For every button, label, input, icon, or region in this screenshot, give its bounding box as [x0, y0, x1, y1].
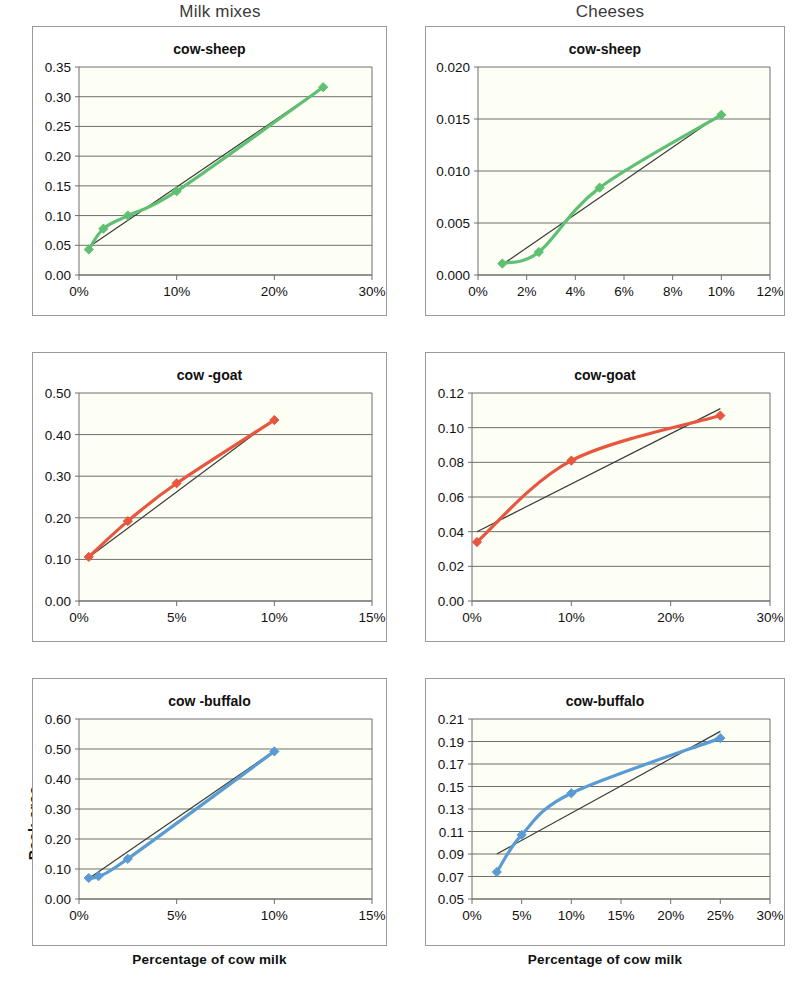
x-tick-label: 5% [512, 908, 532, 923]
y-tick-label: 0.40 [45, 772, 71, 787]
y-tick-label: 0.30 [45, 90, 71, 105]
x-tick-label: 25% [707, 908, 734, 923]
y-tick-label: 0.10 [45, 209, 71, 224]
x-tick-label: 4% [566, 284, 586, 299]
y-tick-label: 0.15 [438, 780, 464, 795]
panel-milk-cow-buffalo: cow -buffalo 0.000.100.200.300.400.500.6… [32, 678, 387, 946]
y-tick-label: 0.06 [438, 490, 464, 505]
y-tick-label: 0.09 [438, 847, 464, 862]
x-tick-label: 0% [468, 284, 488, 299]
panel-cheese-cow-goat: cow-goat 0.000.020.040.060.080.100.120%1… [425, 352, 785, 642]
y-tick-label: 0.17 [438, 757, 464, 772]
plot-area [79, 67, 372, 275]
x-tick-label: 20% [261, 284, 288, 299]
y-tick-label: 0.05 [45, 238, 71, 253]
x-tick-label: 10% [261, 908, 288, 923]
x-tick-label: 30% [756, 610, 783, 625]
y-tick-label: 0.13 [438, 802, 464, 817]
x-tick-label: 15% [358, 610, 385, 625]
y-tick-label: 0.00 [45, 268, 71, 283]
plot-milk-cow-goat: 0.000.100.200.300.400.500%5%10%15% [33, 353, 386, 641]
y-tick-label: 0.07 [438, 870, 464, 885]
y-tick-label: 0.08 [438, 455, 464, 470]
chart-svg: 0.000.100.200.300.400.500.600%5%10%15% [33, 679, 388, 947]
y-tick-label: 0.50 [45, 742, 71, 757]
x-tick-label: 10% [163, 284, 190, 299]
y-tick-label: 0.10 [45, 552, 71, 567]
plot-milk-cow-buffalo: 0.000.100.200.300.400.500.600%5%10%15% [33, 679, 386, 945]
y-tick-label: 0.60 [45, 712, 71, 727]
x-axis-title-milk: Percentage of cow milk [32, 952, 387, 967]
y-tick-label: 0.10 [45, 862, 71, 877]
plot-milk-cow-sheep: 0.000.050.100.150.200.250.300.350%10%20%… [33, 27, 386, 315]
y-tick-label: 0.15 [45, 179, 71, 194]
x-tick-label: 30% [358, 284, 385, 299]
y-tick-label: 0.10 [438, 421, 464, 436]
y-tick-label: 0.000 [436, 268, 470, 283]
panel-milk-cow-goat: cow -goat 0.000.100.200.300.400.500%5%10… [32, 352, 387, 642]
y-tick-label: 0.005 [436, 216, 470, 231]
y-tick-label: 0.21 [438, 712, 464, 727]
y-tick-label: 0.05 [438, 892, 464, 907]
chart-svg: 0.000.020.040.060.080.100.120%10%20%30% [426, 353, 786, 643]
x-tick-label: 15% [358, 908, 385, 923]
chart-svg: 0.000.100.200.300.400.500%5%10%15% [33, 353, 388, 643]
y-tick-label: 0.25 [45, 119, 71, 134]
panel-milk-cow-sheep: cow-sheep 0.000.050.100.150.200.250.300.… [32, 26, 387, 316]
y-tick-label: 0.30 [45, 469, 71, 484]
x-tick-label: 0% [462, 908, 482, 923]
x-tick-label: 8% [663, 284, 683, 299]
chart-row-goat: Peak area cow -goat 0.000.100.200.300.40… [0, 352, 800, 652]
plot-cheese-cow-goat: 0.000.020.040.060.080.100.120%10%20%30% [426, 353, 784, 641]
x-tick-label: 0% [69, 610, 89, 625]
x-tick-label: 10% [558, 610, 585, 625]
y-tick-label: 0.50 [45, 386, 71, 401]
x-axis-title-cheese: Percentage of cow milk [425, 952, 785, 967]
y-tick-label: 0.00 [45, 892, 71, 907]
x-tick-label: 15% [607, 908, 634, 923]
x-tick-label: 0% [69, 284, 89, 299]
x-tick-label: 10% [558, 908, 585, 923]
chart-svg: 0.000.050.100.150.200.250.300.350%10%20%… [33, 27, 388, 317]
y-tick-label: 0.40 [45, 428, 71, 443]
x-tick-label: 12% [756, 284, 783, 299]
plot-area [79, 393, 372, 601]
y-tick-label: 0.02 [438, 559, 464, 574]
y-tick-label: 0.00 [438, 594, 464, 609]
y-tick-label: 0.20 [45, 511, 71, 526]
y-tick-label: 0.020 [436, 60, 470, 75]
x-tick-label: 6% [614, 284, 634, 299]
y-tick-label: 0.19 [438, 735, 464, 750]
y-tick-label: 0.04 [438, 525, 465, 540]
x-tick-label: 5% [167, 908, 187, 923]
y-tick-label: 0.12 [438, 386, 464, 401]
y-tick-label: 0.30 [45, 802, 71, 817]
chart-svg: 0.050.070.090.110.130.150.170.190.210%5%… [426, 679, 786, 947]
panel-cheese-cow-sheep: cow-sheep 0.0000.0050.0100.0150.0200%2%4… [425, 26, 785, 316]
x-tick-label: 5% [167, 610, 187, 625]
y-tick-label: 0.010 [436, 164, 470, 179]
x-tick-label: 20% [657, 610, 684, 625]
y-tick-label: 0.11 [439, 825, 464, 840]
column-header-milk-mixes: Milk mixes [40, 2, 400, 22]
plot-cheese-cow-buffalo: 0.050.070.090.110.130.150.170.190.210%5%… [426, 679, 784, 945]
panel-cheese-cow-buffalo: cow-buffalo 0.050.070.090.110.130.150.17… [425, 678, 785, 946]
x-tick-label: 10% [261, 610, 288, 625]
chart-row-sheep: Peak area cow-sheep 0.000.050.100.150.20… [0, 26, 800, 326]
chart-row-buffalo: Peak area cow -buffalo 0.000.100.200.300… [0, 678, 800, 968]
x-tick-label: 0% [69, 908, 89, 923]
y-tick-label: 0.015 [436, 112, 470, 127]
y-tick-label: 0.20 [45, 832, 71, 847]
y-tick-label: 0.35 [45, 60, 71, 75]
x-tick-label: 10% [708, 284, 735, 299]
x-tick-label: 2% [517, 284, 537, 299]
x-tick-label: 20% [657, 908, 684, 923]
column-header-cheeses: Cheeses [430, 2, 790, 22]
figure-root: Milk mixes Cheeses Peak area cow-sheep 0… [0, 0, 800, 1005]
x-tick-label: 30% [756, 908, 783, 923]
plot-cheese-cow-sheep: 0.0000.0050.0100.0150.0200%2%4%6%8%10%12… [426, 27, 784, 315]
y-tick-label: 0.20 [45, 149, 71, 164]
chart-svg: 0.0000.0050.0100.0150.0200%2%4%6%8%10%12… [426, 27, 786, 317]
y-tick-label: 0.00 [45, 594, 71, 609]
x-tick-label: 0% [462, 610, 482, 625]
